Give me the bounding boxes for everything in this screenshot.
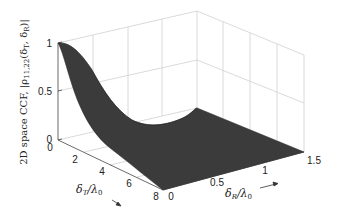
y-tick-1-5: 1.5: [307, 155, 321, 166]
z-axis: [58, 42, 62, 140]
x-tick-0: 0: [47, 142, 53, 153]
y-axis-arrow: [260, 182, 278, 188]
y-tick-1: 1: [262, 165, 268, 176]
z-axis-label: 2D space CCF, |ρ11,22(δT, δR)|: [18, 19, 31, 165]
x-tick-2: 2: [72, 154, 78, 165]
y-tick-0: 0: [168, 191, 174, 202]
y-tick-0-5: 0.5: [210, 177, 224, 188]
x-axis-arrow: [112, 200, 121, 206]
x-axis-label: δT/λ0: [76, 183, 102, 197]
surface-plot: 1 0.5 0 0 2 4 6 8 0 0.5 1 1.5 δT/λ0 δR/λ…: [0, 0, 338, 213]
x-tick-6: 6: [126, 178, 132, 189]
z-tick-0-5: 0.5: [38, 86, 52, 97]
x-tick-4: 4: [99, 166, 105, 177]
z-tick-1: 1: [46, 38, 52, 49]
x-tick-8: 8: [153, 191, 159, 202]
y-axis-label: δR/λ0: [225, 187, 252, 201]
